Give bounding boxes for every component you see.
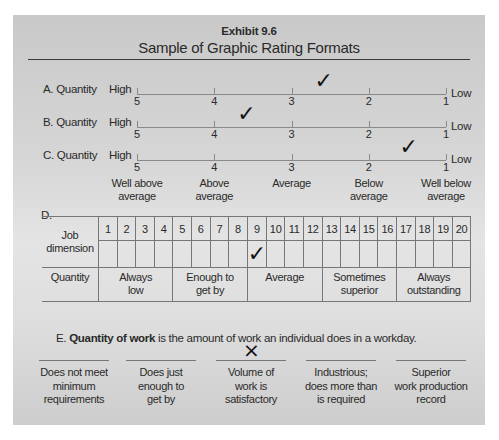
rating-blank-line[interactable] (126, 360, 196, 361)
scale-tick (214, 154, 215, 160)
scale-high-label: High (109, 83, 131, 95)
grid-number-cell: 3 (136, 217, 155, 241)
grid-mark-cell[interactable] (285, 241, 304, 268)
scale-tick (292, 88, 293, 94)
scale-label: B. Quantity (43, 116, 97, 128)
grid-number-cell: 13 (322, 217, 341, 241)
grid-number-cell: 19 (434, 217, 453, 241)
grid-anchor-label: Average (247, 268, 322, 302)
grid-mark-cell[interactable] (154, 241, 173, 268)
grid-number-cell: 10 (266, 217, 285, 241)
job-dimension-header: Jobdimension (42, 217, 99, 268)
rating-blank-line[interactable] (396, 360, 466, 361)
scale-point-number: 3 (282, 95, 302, 107)
scale-point-number: 5 (127, 161, 147, 173)
rating-blank-line[interactable] (306, 360, 376, 361)
grid-mark-cell[interactable] (378, 241, 397, 268)
rating-grid: Jobdimension1234567891011121314151617181… (42, 216, 471, 302)
anchor-line-1: Well below (421, 177, 471, 189)
scale-anchor-label: Average (252, 177, 332, 190)
scale-point-number: 4 (204, 161, 224, 173)
section-e-prefix: E. (56, 332, 66, 344)
scale-tick (369, 121, 370, 127)
scale-tick (137, 121, 138, 127)
scale-point-number: 1 (436, 128, 456, 140)
grid-number-cell: 12 (304, 217, 323, 241)
grid-mark-cell[interactable] (136, 241, 155, 268)
anchor-line-1: Average (272, 177, 311, 189)
scale-point-number: 4 (204, 128, 224, 140)
grid-mark-cell[interactable] (341, 241, 360, 268)
section-e-term: Quantity of work (69, 332, 155, 344)
grid-number-cell: 20 (452, 217, 471, 241)
grid-number-cell: 9 (247, 217, 266, 241)
scale-point-number: 1 (436, 161, 456, 173)
grid-mark-cell[interactable] (452, 241, 471, 268)
scale-tick (446, 121, 447, 127)
grid-number-cell: 17 (397, 217, 416, 241)
grid-mark-cell[interactable] (117, 241, 136, 268)
anchor-line-2: average (118, 190, 156, 202)
check-mark-icon: ✓ (248, 241, 266, 266)
scale-tick (137, 88, 138, 94)
grid-number-cell: 8 (229, 217, 248, 241)
scale-point-number: 4 (204, 95, 224, 107)
section-e-rest: is the amount of work an individual does… (158, 332, 416, 344)
grid-mark-cell[interactable] (397, 241, 416, 268)
grid-number-cell: 6 (191, 217, 210, 241)
scale-tick (446, 88, 447, 94)
scale-point-number: 1 (436, 95, 456, 107)
grid-mark-cell[interactable] (191, 241, 210, 268)
scale-tick (369, 154, 370, 160)
rating-option-description: Volume ofwork issatisfactory (201, 366, 301, 407)
scale-tick (292, 121, 293, 127)
grid-mark-cell[interactable]: ✓ (247, 241, 266, 268)
scale-tick (137, 154, 138, 160)
grid-anchor-label: Enough toget by (173, 268, 247, 302)
grid-number-cell: 5 (173, 217, 192, 241)
anchor-line-1: Above (199, 177, 229, 189)
scale-tick (214, 121, 215, 127)
exhibit-panel: Exhibit 9.6 Sample of Graphic Rating For… (13, 15, 485, 425)
scale-point-number: 3 (282, 161, 302, 173)
scale-tick (214, 88, 215, 94)
grid-mark-cell[interactable] (322, 241, 341, 268)
anchor-line-1: Below (355, 177, 383, 189)
scale-point-number: 5 (127, 95, 147, 107)
grid-mark-cell[interactable] (229, 241, 248, 268)
exhibit-number: Exhibit 9.6 (13, 25, 485, 37)
scale-anchor-label: Well aboveaverage (97, 177, 177, 203)
title-divider (28, 59, 470, 60)
rating-blank-line[interactable] (39, 360, 109, 361)
rating-option-description: Superiorwork productionrecord (381, 366, 481, 407)
scale-anchor-label: Belowaverage (329, 177, 409, 203)
scale-high-label: High (109, 116, 131, 128)
grid-mark-cell[interactable] (434, 241, 453, 268)
grid-mark-cell[interactable] (210, 241, 229, 268)
scale-tick (446, 154, 447, 160)
grid-mark-cell[interactable] (173, 241, 192, 268)
scale-tick (292, 154, 293, 160)
anchor-line-2: average (427, 190, 465, 202)
grid-number-cell: 11 (285, 217, 304, 241)
grid-number-cell: 1 (99, 217, 118, 241)
grid-mark-cell[interactable] (266, 241, 285, 268)
rating-option-description: Does justenough toget by (111, 366, 211, 407)
scale-point-number: 2 (359, 128, 379, 140)
grid-number-cell: 7 (210, 217, 229, 241)
anchor-line-2: average (195, 190, 233, 202)
scale-point-number: 5 (127, 128, 147, 140)
grid-mark-cell[interactable] (359, 241, 378, 268)
grid-mark-cell[interactable] (415, 241, 434, 268)
scale-label: C. Quantity (43, 149, 97, 161)
grid-anchor-label: Alwayslow (99, 268, 173, 302)
grid-mark-cell[interactable] (99, 241, 118, 268)
grid-number-cell: 2 (117, 217, 136, 241)
grid-mark-cell[interactable] (304, 241, 323, 268)
grid-number-cell: 15 (359, 217, 378, 241)
scale-anchor-label: Aboveaverage (174, 177, 254, 203)
scale-label: A. Quantity (43, 83, 97, 95)
scale-anchor-label: Well belowaverage (406, 177, 486, 203)
check-mark-icon: ✓ (314, 70, 332, 92)
rating-option-description: Does not meetminimumrequirements (24, 366, 124, 407)
